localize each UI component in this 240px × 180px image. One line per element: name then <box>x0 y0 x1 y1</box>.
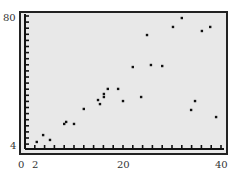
x-ticks <box>25 145 221 149</box>
y-tick-label-4: 4 <box>10 140 16 151</box>
data-point <box>215 116 217 118</box>
x-tick-label-20: 20 <box>117 159 130 170</box>
data-point <box>36 141 38 143</box>
x-tick-label-40: 40 <box>215 159 228 170</box>
data-point <box>117 88 119 90</box>
data-point <box>132 66 134 68</box>
data-point <box>103 96 105 98</box>
data-point <box>103 93 105 95</box>
data-point <box>49 139 51 141</box>
data-point <box>99 103 101 105</box>
data-point <box>107 88 109 90</box>
x-tick-label-2: 2 <box>32 159 38 170</box>
data-point <box>97 99 99 101</box>
data-point <box>146 34 148 36</box>
data-point <box>42 134 44 136</box>
plot-frame <box>20 12 227 154</box>
data-point <box>172 26 174 28</box>
data-point <box>209 26 211 28</box>
data-point <box>65 121 67 123</box>
data-point <box>190 109 192 111</box>
data-point <box>161 65 163 67</box>
data-point <box>122 100 124 102</box>
y-tick-label-80: 80 <box>3 12 16 23</box>
data-point <box>140 96 142 98</box>
data-point <box>150 64 152 66</box>
scatter-plot: 80 4 0 2 20 40 <box>0 0 240 180</box>
data-point <box>194 100 196 102</box>
data-point <box>73 123 75 125</box>
data-point <box>201 30 203 32</box>
x-tick-label-0: 0 <box>18 159 24 170</box>
data-point <box>181 17 183 19</box>
data-point <box>83 108 85 110</box>
